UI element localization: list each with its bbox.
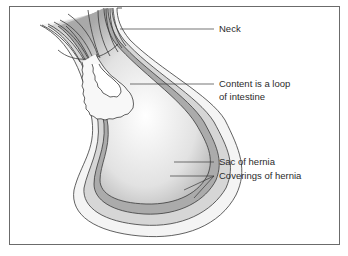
label-sac: Sac of hernia xyxy=(219,156,275,167)
label-coverings: Coverings of hernia xyxy=(219,170,301,181)
label-content-line1: Content is a loop xyxy=(219,78,290,89)
label-content-line2: of intestine xyxy=(219,91,265,102)
hernia-diagram xyxy=(0,0,348,256)
label-neck: Neck xyxy=(219,23,241,34)
